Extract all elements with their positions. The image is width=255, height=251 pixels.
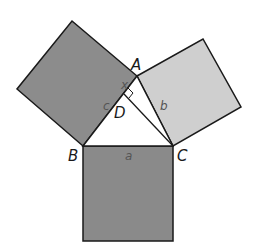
side-label-a: a [125, 149, 132, 163]
vertex-label-b: B [68, 147, 78, 165]
vertex-label-d: D [114, 104, 126, 122]
side-label-b: b [160, 99, 168, 113]
vertex-label-c: C [177, 147, 188, 165]
vertex-label-a: A [130, 56, 141, 74]
side-label-x: x [120, 78, 129, 92]
pythagorean-diagram: A B C D x c b a [0, 0, 255, 251]
side-label-c: c [103, 99, 110, 113]
